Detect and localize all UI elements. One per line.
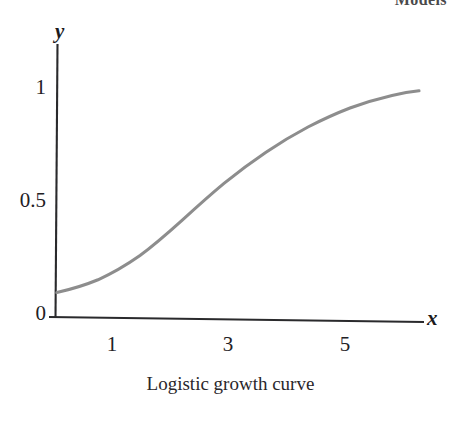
y-axis-label: y [55,21,64,42]
figure-caption: Logistic growth curve [0,373,461,395]
y-tick-label-0.5: 0.5 [0,190,46,211]
y-tick-label-0: 0 [8,303,46,324]
y-axis-line [56,44,58,318]
x-axis-label: x [427,308,438,329]
x-tick-label-1: 1 [100,334,124,355]
x-tick-label-3: 3 [216,334,240,355]
x-tick-label-5: 5 [333,334,357,355]
plot-svg [0,0,461,422]
figure-logistic-growth-curve: 1 0.5 0 1 3 5 y x Logistic growth curve [0,0,461,422]
x-axis-line [49,317,424,322]
y-tick-label-1: 1 [8,77,46,98]
logistic-curve [57,91,419,293]
